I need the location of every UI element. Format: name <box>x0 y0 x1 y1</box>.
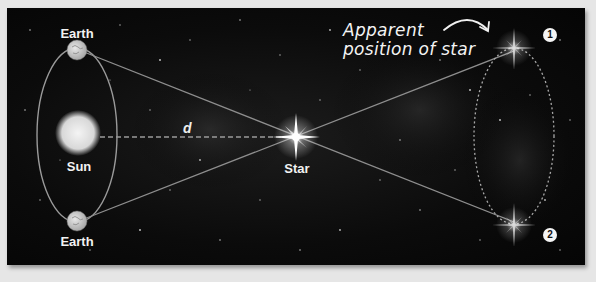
position-1-badge: 1 <box>543 28 557 42</box>
sun-label: Sun <box>67 159 92 174</box>
position-2-badge: 2 <box>543 228 557 242</box>
earth-top-label: Earth <box>60 26 93 41</box>
parallax-diagram: Earth Sun Earth Star d Apparent position… <box>0 0 596 282</box>
earth-bottom <box>67 211 87 231</box>
distance-label: d <box>183 120 192 136</box>
earth-bottom-label: Earth <box>60 234 93 249</box>
star-label: Star <box>284 161 309 176</box>
apparent-position-line-1: Apparent <box>343 21 475 40</box>
apparent-position-line-2: position of star <box>343 40 475 59</box>
apparent-position-label: Apparent position of star <box>343 21 475 59</box>
sun <box>55 110 101 156</box>
apparent-star-1-icon <box>492 28 536 70</box>
earth-top <box>67 40 87 60</box>
